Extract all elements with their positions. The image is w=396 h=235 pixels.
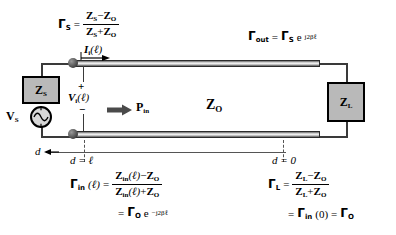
distance-axis-line xyxy=(46,152,286,153)
node-input-bottom xyxy=(68,129,78,139)
gamma-out-exp-base: e xyxy=(297,32,302,43)
gamma-o-symbol: ΓO xyxy=(340,207,354,221)
wire-source-bottom-horizontal xyxy=(41,136,72,138)
gamma-l-fraction: ZL−ZO ZL+ZO xyxy=(292,170,329,199)
gamma-out-symbol: Γout xyxy=(248,30,269,44)
gamma-in-symbol: Γin xyxy=(70,178,85,192)
gamma-in-equals: = xyxy=(103,179,109,190)
gamma-l-third-equals: = xyxy=(331,209,337,220)
gamma-s-denominator: ZS+ZO xyxy=(83,24,119,39)
source-impedance-box[interactable]: ZS xyxy=(22,76,60,104)
equation-gamma-l-identity: = Γin(0) = ΓO xyxy=(288,207,354,221)
gamma-out-exponent: j2βℓ xyxy=(305,34,317,41)
gamma-l-symbol: ΓL xyxy=(268,178,280,192)
gamma-l-numerator: ZL−ZO xyxy=(292,170,329,184)
gamma-in-zero-symbol: Γin xyxy=(297,207,312,221)
power-direction-arrow-icon xyxy=(107,104,133,116)
gamma-l-second-equals: = xyxy=(288,209,294,220)
polarity-tick-upper xyxy=(83,66,84,82)
wire-load-top-vertical xyxy=(346,63,348,82)
axis-direction-label: d xyxy=(35,146,41,157)
line-impedance-label: ZO xyxy=(206,98,222,114)
wire-load-bottom-vertical xyxy=(346,122,348,137)
gamma-out-rhs: ΓS xyxy=(281,30,294,44)
gamma-in-second-equals: = xyxy=(118,208,124,219)
diagram-canvas: ΓS = ZS−ZO ZS+ZO Γout = ΓSej2βℓ xyxy=(0,0,396,235)
equation-gamma-s: ΓS = ZS−ZO ZS+ZO xyxy=(58,10,119,39)
load-impedance-box[interactable]: ZL xyxy=(327,82,365,122)
gamma-in-zero-argument: (0) xyxy=(315,209,328,220)
equation-gamma-in: Γin (ℓ) = Zin(ℓ)−ZO Zin(ℓ)+ZO xyxy=(70,170,162,199)
axis-direction-arrow-icon xyxy=(44,147,60,157)
gamma-s-fraction: ZS−ZO ZS+ZO xyxy=(83,10,119,39)
equation-gamma-l: ΓL = ZL−ZO ZL+ZO xyxy=(268,170,329,199)
load-impedance-label: ZL xyxy=(340,95,353,110)
gamma-in-numerator: Zin(ℓ)−ZO xyxy=(112,170,162,184)
node-input-top xyxy=(68,58,78,68)
gamma-in-denominator: Zin(ℓ)+ZO xyxy=(112,184,162,199)
wire-load-top-horizontal xyxy=(318,63,348,65)
gamma-s-numerator: ZS−ZO xyxy=(83,10,119,24)
gamma-in-second-rhs: ΓO xyxy=(127,206,141,220)
gamma-s-equals: = xyxy=(74,19,80,30)
current-direction-arrow-icon xyxy=(78,52,112,64)
gamma-l-denominator: ZL+ZO xyxy=(292,184,329,199)
gamma-in-exp-base: e xyxy=(144,208,149,219)
gamma-s-symbol: ΓS xyxy=(58,18,71,32)
equation-gamma-in-exponential: = ΓOe−j2βℓ xyxy=(118,206,168,220)
incident-power-label: Pin xyxy=(136,101,149,115)
sine-wave-icon xyxy=(30,106,52,128)
gamma-in-argument: (ℓ) xyxy=(88,179,100,190)
polarity-tick-lower xyxy=(83,114,84,131)
transmission-line-lower-conductor xyxy=(72,131,320,138)
axis-label-right: d = 0 xyxy=(272,155,296,166)
axis-label-left: d = ℓ xyxy=(70,155,93,166)
gamma-in-fraction: Zin(ℓ)−ZO Zin(ℓ)+ZO xyxy=(112,170,162,199)
wire-load-bottom-horizontal xyxy=(318,136,348,138)
gamma-in-exponent: −j2βℓ xyxy=(152,210,168,217)
source-impedance-label: ZS xyxy=(35,83,47,98)
voltage-source-label: VS xyxy=(6,110,19,124)
equation-gamma-out: Γout = ΓSej2βℓ xyxy=(248,30,317,44)
gamma-l-equals: = xyxy=(283,179,289,190)
gamma-out-equals: = xyxy=(272,32,278,43)
